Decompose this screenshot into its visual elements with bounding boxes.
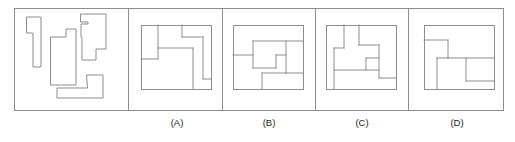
tall-zigzag-piece [81,14,106,60]
option-b[interactable] [233,26,304,90]
puzzle-figure: (A)(B)(C)(D) [0,0,515,142]
loose-pieces-panel [27,14,106,98]
narrow-hook-piece [27,17,41,67]
puzzle-canvas: (A)(B)(C)(D) [0,0,515,142]
option-d[interactable] [424,26,495,90]
low-step-piece [57,75,103,98]
option-d-label: (D) [450,117,463,128]
option-a[interactable] [141,25,212,90]
option-c-label: (C) [355,117,368,128]
option-a-outline [142,26,212,90]
option-c[interactable] [327,25,397,90]
option-labels: (A)(B)(C)(D) [171,117,464,128]
option-a-label: (A) [171,117,184,128]
option-c-outline [327,26,397,90]
large-notched-block-piece [51,29,76,85]
option-b-label: (B) [263,117,276,128]
option-b-outline [234,26,304,90]
option-panels [141,25,495,90]
